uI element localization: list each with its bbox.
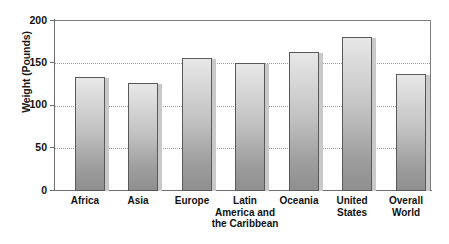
bar-africa [75,77,105,191]
y-axis-tick-labels: 200 150 100 50 0 [13,0,47,244]
bar-oceania [289,52,319,191]
y-tick-label-50: 50 [13,142,47,152]
bar-chart: Weight (Pounds) 200 150 100 50 0 [0,0,449,244]
bar-united-states [342,37,372,191]
bar-overall-world [396,74,426,191]
plot-area [55,20,431,190]
y-tick-label-0: 0 [13,185,47,195]
y-tick-label-150: 150 [13,57,47,67]
bar-asia [128,83,158,191]
y-tick-label-100: 100 [13,99,47,109]
bar-europe [182,58,212,191]
x-tick-label-overall-world: Overall World [366,195,446,218]
y-tick-label-200: 200 [13,15,47,25]
bar-latin-america-and-the-caribbean [235,63,265,191]
